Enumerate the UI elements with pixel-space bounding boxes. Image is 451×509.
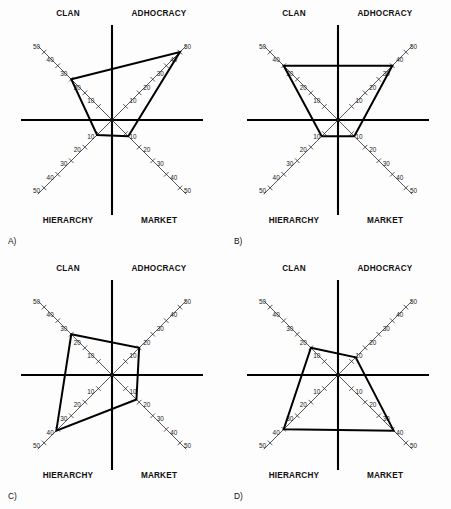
tick-label: 50 (33, 442, 41, 449)
tick-label: 30 (286, 325, 294, 332)
tick-label: 30 (157, 415, 165, 422)
tick-label: 20 (300, 401, 308, 408)
quadrant-label-clan: CLAN (56, 264, 80, 273)
quadrant-label-market: MARKET (367, 471, 403, 480)
tick-label: 10 (87, 388, 95, 395)
tick-label: 20 (143, 146, 151, 153)
tick-label: 20 (369, 146, 377, 153)
tick-label: 30 (383, 325, 391, 332)
tick-label: 50 (410, 43, 418, 50)
tick-label: 30 (157, 160, 165, 167)
panel-letter: D) (234, 491, 243, 501)
tick-label: 40 (170, 311, 178, 318)
tick-label: 40 (47, 311, 55, 318)
tick-label: 40 (396, 174, 404, 181)
tick-label: 50 (259, 442, 267, 449)
panel-letter: A) (8, 236, 17, 246)
tick-label: 40 (47, 429, 55, 436)
tick-label: 40 (47, 174, 55, 181)
tick-label: 40 (273, 311, 281, 318)
tick-label: 40 (170, 174, 178, 181)
culture-profile-polygon (56, 334, 139, 430)
tick-label: 50 (259, 187, 267, 194)
tick-label: 40 (273, 429, 281, 436)
radar-panel-d: 1020304050102030405010203040501020304050… (226, 255, 451, 509)
value-axis-hierarchy (264, 120, 338, 194)
tick-label: 10 (130, 352, 138, 359)
tick-label: 10 (87, 97, 95, 104)
value-axis-hierarchy (264, 375, 338, 449)
tick-label: 50 (33, 298, 41, 305)
tick-label: 40 (170, 429, 178, 436)
panel-letter: C) (8, 491, 17, 501)
tick-label: 40 (47, 56, 55, 63)
quadrant-label-market: MARKET (141, 471, 177, 480)
tick-label: 30 (157, 325, 165, 332)
tick-label: 50 (259, 298, 267, 305)
radar-panel-a: 1020304050102030405010203040501020304050… (0, 0, 225, 254)
tick-label: 20 (74, 401, 82, 408)
tick-label: 30 (60, 160, 68, 167)
tick-label: 10 (313, 352, 321, 359)
quadrant-label-adhocracy: ADHOCRACY (357, 9, 412, 18)
tick-label: 20 (369, 339, 377, 346)
quadrant-label-adhocracy: ADHOCRACY (357, 264, 412, 273)
radar-plot: 1020304050102030405010203040501020304050… (0, 0, 225, 254)
tick-label: 50 (410, 298, 418, 305)
tick-label: 20 (300, 84, 308, 91)
tick-label: 30 (60, 325, 68, 332)
tick-label: 30 (383, 160, 391, 167)
quadrant-label-hierarchy: HIERARCHY (269, 471, 320, 480)
tick-label: 30 (60, 70, 68, 77)
value-axis-hierarchy (38, 120, 112, 194)
value-axis-hierarchy (38, 375, 112, 449)
tick-label: 20 (143, 339, 151, 346)
radar-plot: 1020304050102030405010203040501020304050… (0, 255, 225, 509)
tick-label: 50 (410, 187, 418, 194)
tick-label: 10 (313, 388, 321, 395)
quadrant-label-clan: CLAN (282, 9, 306, 18)
value-axis-market (338, 375, 412, 449)
tick-label: 30 (286, 160, 294, 167)
tick-label: 50 (184, 298, 192, 305)
tick-label: 50 (184, 187, 192, 194)
tick-label: 30 (60, 415, 68, 422)
tick-label: 40 (273, 174, 281, 181)
quadrant-label-clan: CLAN (282, 264, 306, 273)
quadrant-label-hierarchy: HIERARCHY (43, 216, 94, 225)
quadrant-label-clan: CLAN (56, 9, 80, 18)
tick-label: 20 (300, 146, 308, 153)
tick-label: 10 (87, 352, 95, 359)
quadrant-label-market: MARKET (367, 216, 403, 225)
radar-panel-b: 1020304050102030405010203040501020304050… (226, 0, 451, 254)
tick-label: 50 (259, 43, 267, 50)
tick-label: 10 (356, 97, 364, 104)
radar-plot: 1020304050102030405010203040501020304050… (226, 0, 451, 254)
value-axis-market (112, 375, 186, 449)
quadrant-label-adhocracy: ADHOCRACY (131, 9, 186, 18)
tick-label: 40 (396, 56, 404, 63)
tick-label: 50 (33, 43, 41, 50)
tick-label: 10 (87, 133, 95, 140)
tick-label: 20 (369, 401, 377, 408)
tick-label: 20 (369, 84, 377, 91)
radar-panel-c: 1020304050102030405010203040501020304050… (0, 255, 225, 509)
panel-letter: B) (234, 236, 243, 246)
tick-label: 50 (33, 187, 41, 194)
tick-label: 50 (184, 43, 192, 50)
tick-label: 40 (273, 56, 281, 63)
value-axis-market (112, 120, 186, 194)
figure-canvas: 1020304050102030405010203040501020304050… (0, 0, 451, 509)
quadrant-label-adhocracy: ADHOCRACY (131, 264, 186, 273)
tick-label: 10 (356, 388, 364, 395)
quadrant-label-hierarchy: HIERARCHY (43, 471, 94, 480)
tick-label: 20 (143, 84, 151, 91)
tick-label: 20 (74, 339, 82, 346)
radar-plot: 1020304050102030405010203040501020304050… (226, 255, 451, 509)
tick-label: 10 (313, 97, 321, 104)
culture-profile-polygon (71, 52, 180, 136)
value-axis-market (338, 120, 412, 194)
tick-label: 30 (157, 70, 165, 77)
tick-label: 40 (396, 311, 404, 318)
tick-label: 20 (300, 339, 308, 346)
